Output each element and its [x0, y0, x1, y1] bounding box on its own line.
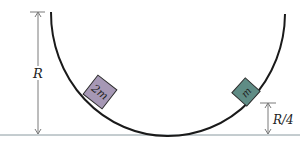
- block-m: m: [232, 78, 260, 106]
- radius-label: R: [32, 66, 43, 81]
- diagram-canvas: R R/4 2m m: [0, 0, 300, 143]
- semicircular-track: [51, 12, 285, 136]
- height-label: R/4: [272, 113, 294, 127]
